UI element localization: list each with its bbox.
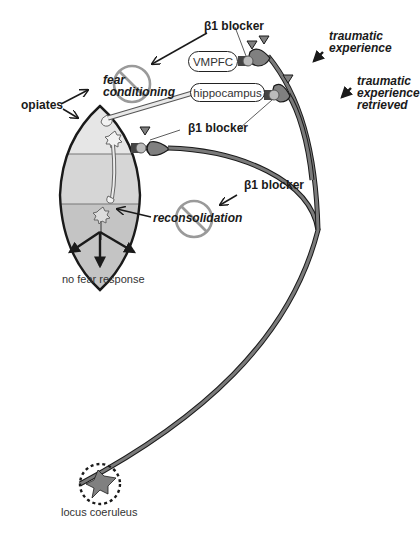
vmpfc-box: VMPFC xyxy=(188,51,238,72)
fear-conditioning-label-2: conditioning xyxy=(103,86,175,99)
receptor-vmpfc xyxy=(238,56,253,66)
traumatic-retrieved-label-3: retrieved xyxy=(357,99,408,112)
beta-blocker-label-top: β1 blocker xyxy=(204,20,264,33)
receptor-amygdala xyxy=(131,143,146,153)
reconsolidation-label: reconsolidation xyxy=(153,212,242,225)
opiates-label: opiates xyxy=(21,99,63,112)
no-fear-response-label: no fear response xyxy=(62,274,145,286)
locus-coeruleus xyxy=(80,464,120,504)
beta-blocker-label-mid: β1 blocker xyxy=(188,122,248,135)
traumatic-experience-label-2: experience xyxy=(329,42,392,55)
receptor-hippocampus xyxy=(264,90,279,100)
traumatic-arrows xyxy=(314,52,351,97)
beta-blocker-label-low: β1 blocker xyxy=(244,179,304,192)
hippocampus-box: hippocampus xyxy=(190,83,265,102)
locus-coeruleus-label: locus coeruleus xyxy=(61,507,137,519)
